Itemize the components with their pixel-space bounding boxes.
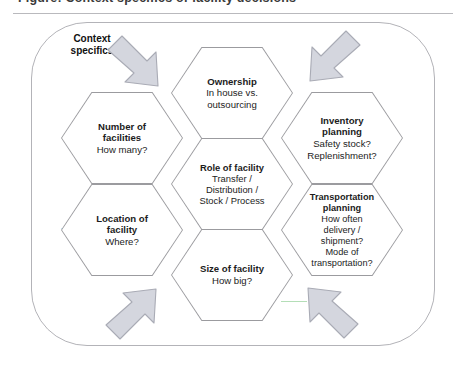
hexagon-ownership-body: Ownership In house vs. outsourcing [172, 48, 292, 138]
hexagon-location-of-facility-body: Location of facility Where? [62, 185, 182, 275]
hexagon-inventory-planning-text: Inventory planning Safety stock? Repleni… [307, 115, 376, 161]
hexagon-role-of-facility-text: Role of facility Transfer / Distribution… [199, 162, 264, 207]
hexagon-size-of-facility-text: Size of facility How big? [200, 263, 264, 286]
hexagon-number-of-facilities: Number of facilities How many? [61, 92, 183, 184]
hexagon-size-of-facility-title: Size of facility [200, 263, 264, 275]
hexagon-size-of-facility-sub-1: How big? [200, 275, 264, 287]
hexagon-transportation-planning-sub-5: transportation? [310, 258, 374, 269]
hexagon-inventory-planning: Inventory planning Safety stock? Repleni… [281, 92, 403, 184]
hexagon-inventory-planning-sub-1: Safety stock? [307, 138, 376, 150]
hexagon-size-of-facility: Size of facility How big? [171, 229, 293, 321]
hexagon-transportation-planning-text: Transportation planning How often delive… [310, 192, 374, 269]
hexagon-inventory-planning-title-2: planning [307, 126, 376, 138]
hexagon-role-of-facility-sub-2: Distribution / [199, 184, 264, 195]
hexagon-number-of-facilities-title-2: facilities [97, 132, 148, 144]
hexagon-transportation-planning-title-1: Transportation [310, 192, 374, 203]
hexagon-transportation-planning-sub-4: Mode of [310, 247, 374, 258]
hexagon-ownership-text: Ownership In house vs. outsourcing [206, 76, 258, 111]
hexagon-number-of-facilities-body: Number of facilities How many? [62, 93, 182, 183]
hexagon-location-of-facility-title-2: facility [96, 224, 148, 236]
hexagon-inventory-planning-sub-2: Replenishment? [307, 150, 376, 162]
hexagon-transportation-planning-body: Transportation planning How often delive… [282, 185, 402, 275]
hexagon-role-of-facility-sub-3: Stock / Process [199, 195, 264, 206]
hexagon-ownership: Ownership In house vs. outsourcing [171, 47, 293, 139]
hexagon-role-of-facility: Role of facility Transfer / Distribution… [171, 138, 293, 230]
hexagon-transportation-planning-sub-3: shipment? [310, 236, 374, 247]
hexagon-role-of-facility-body: Role of facility Transfer / Distribution… [172, 139, 292, 229]
hexagon-location-of-facility-title-1: Location of [96, 213, 148, 225]
hexagon-location-of-facility: Location of facility Where? [61, 184, 183, 276]
hexagon-inventory-planning-body: Inventory planning Safety stock? Repleni… [282, 93, 402, 183]
hexagon-transportation-planning: Transportation planning How often delive… [281, 184, 403, 276]
hexagon-transportation-planning-sub-2: delivery / [310, 225, 374, 236]
hexagon-ownership-title: Ownership [206, 76, 258, 88]
hexagon-size-of-facility-body: Size of facility How big? [172, 230, 292, 320]
hexagon-number-of-facilities-text: Number of facilities How many? [97, 121, 148, 156]
hexagon-transportation-planning-sub-1: How often [310, 214, 374, 225]
hexagon-role-of-facility-title: Role of facility [199, 162, 264, 173]
hexagon-ownership-sub-1: In house vs. [206, 87, 258, 99]
hexagon-role-of-facility-sub-1: Transfer / [199, 173, 264, 184]
hexagon-inventory-planning-title-1: Inventory [307, 115, 376, 127]
hexagon-transportation-planning-title-2: planning [310, 203, 374, 214]
hexagon-ownership-sub-2: outsourcing [206, 99, 258, 111]
hexagon-location-of-facility-text: Location of facility Where? [96, 213, 148, 248]
hexagon-location-of-facility-sub-1: Where? [96, 236, 148, 248]
hexagon-number-of-facilities-title-1: Number of [97, 121, 148, 133]
hexagon-number-of-facilities-sub-1: How many? [97, 144, 148, 156]
